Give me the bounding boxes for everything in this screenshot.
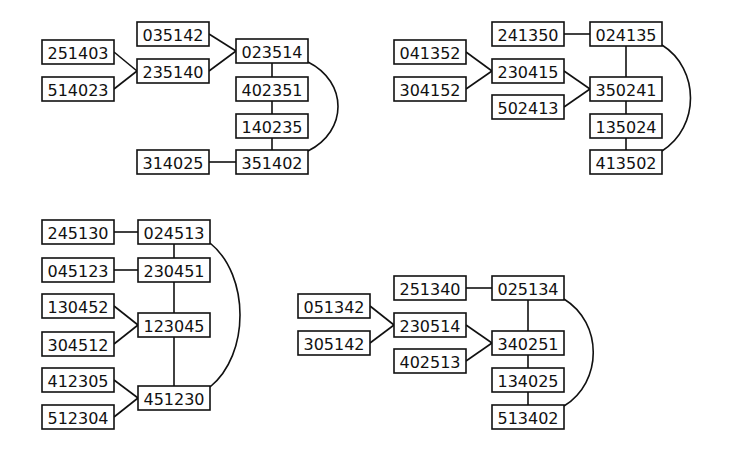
- node-label: 413502: [595, 154, 656, 173]
- node-351402: 351402: [236, 150, 308, 174]
- node-025134: 025134: [492, 276, 564, 300]
- node-label: 045123: [47, 262, 108, 281]
- arc-edge: [662, 45, 691, 151]
- node-130452: 130452: [42, 294, 114, 318]
- node-340251: 340251: [492, 331, 564, 355]
- node-label: 305142: [303, 335, 364, 354]
- edge: [466, 52, 492, 71]
- node-label: 024135: [595, 26, 656, 45]
- node-230451: 230451: [138, 258, 210, 282]
- node-230415: 230415: [492, 59, 564, 83]
- node-041352: 041352: [394, 40, 466, 64]
- edge: [114, 325, 138, 344]
- edge: [209, 34, 236, 51]
- nodes-layer: 0351420235142514032351405140234023511402…: [42, 22, 662, 429]
- edge: [466, 71, 492, 89]
- node-label: 051342: [303, 298, 364, 317]
- node-label: 512304: [47, 409, 108, 428]
- edge: [114, 398, 138, 417]
- node-label: 041352: [399, 44, 460, 63]
- node-024513: 024513: [138, 220, 210, 244]
- node-513402: 513402: [492, 405, 564, 429]
- node-label: 340251: [497, 335, 558, 354]
- edge: [209, 51, 236, 71]
- node-label: 134025: [497, 372, 558, 391]
- edge: [564, 71, 590, 89]
- node-512304: 512304: [42, 405, 114, 429]
- node-label: 235140: [142, 63, 203, 82]
- node-502413: 502413: [492, 95, 564, 119]
- node-label: 230415: [497, 63, 558, 82]
- node-label: 314025: [142, 154, 203, 173]
- node-451230: 451230: [138, 386, 210, 410]
- edge: [564, 89, 590, 107]
- graph-diagram: 0351420235142514032351405140234023511402…: [0, 0, 735, 455]
- node-305142: 305142: [298, 331, 370, 355]
- edge: [114, 380, 138, 398]
- graph-g3-nodes: 2451300245130451232304511304521230453045…: [42, 220, 210, 429]
- node-label: 023514: [241, 43, 302, 62]
- node-label: 035142: [142, 26, 203, 45]
- node-label: 024513: [143, 224, 204, 243]
- node-402513: 402513: [394, 349, 466, 373]
- node-label: 135024: [595, 118, 656, 137]
- node-251340: 251340: [394, 276, 466, 300]
- node-413502: 413502: [590, 150, 662, 174]
- arc-edge: [210, 243, 240, 387]
- node-label: 514023: [47, 81, 108, 100]
- node-label: 502413: [497, 99, 558, 118]
- node-label: 245130: [47, 224, 108, 243]
- node-035142: 035142: [137, 22, 209, 46]
- node-label: 251403: [47, 44, 108, 63]
- node-label: 251340: [399, 280, 460, 299]
- node-235140: 235140: [137, 59, 209, 83]
- graph-g4-nodes: 2513400251340513422305143051423402514025…: [298, 276, 564, 429]
- node-label: 230514: [399, 317, 460, 336]
- node-023514: 023514: [236, 39, 308, 63]
- node-label: 140235: [241, 118, 302, 137]
- node-label: 304512: [47, 336, 108, 355]
- node-241350: 241350: [492, 22, 564, 46]
- node-412305: 412305: [42, 368, 114, 392]
- node-245130: 245130: [42, 220, 114, 244]
- node-label: 351402: [241, 154, 302, 173]
- node-051342: 051342: [298, 294, 370, 318]
- edge: [114, 52, 137, 71]
- node-045123: 045123: [42, 258, 114, 282]
- node-350241: 350241: [590, 77, 662, 101]
- node-134025: 134025: [492, 368, 564, 392]
- node-label: 402351: [241, 81, 302, 100]
- node-402351: 402351: [236, 77, 308, 101]
- node-label: 241350: [497, 26, 558, 45]
- edge: [114, 306, 138, 325]
- node-140235: 140235: [236, 114, 308, 138]
- edge: [370, 325, 394, 343]
- node-024135: 024135: [590, 22, 662, 46]
- graph-g2-nodes: 2413500241350413522304153041523502415024…: [394, 22, 662, 174]
- node-230514: 230514: [394, 313, 466, 337]
- node-123045: 123045: [138, 313, 210, 337]
- node-135024: 135024: [590, 114, 662, 138]
- node-label: 402513: [399, 353, 460, 372]
- edge: [466, 325, 492, 343]
- node-label: 350241: [595, 81, 656, 100]
- edge: [114, 71, 137, 89]
- node-304512: 304512: [42, 332, 114, 356]
- node-label: 130452: [47, 298, 108, 317]
- graph-g1-nodes: 0351420235142514032351405140234023511402…: [42, 22, 308, 174]
- node-label: 230451: [143, 262, 204, 281]
- node-514023: 514023: [42, 77, 114, 101]
- node-251403: 251403: [42, 40, 114, 64]
- edge: [466, 343, 492, 361]
- node-label: 123045: [143, 317, 204, 336]
- node-label: 412305: [47, 372, 108, 391]
- arc-edge: [308, 62, 338, 151]
- node-label: 451230: [143, 390, 204, 409]
- node-314025: 314025: [137, 150, 209, 174]
- arc-edge: [564, 299, 593, 406]
- node-label: 304152: [399, 81, 460, 100]
- node-label: 025134: [497, 280, 558, 299]
- node-304152: 304152: [394, 77, 466, 101]
- edge: [370, 306, 394, 325]
- node-label: 513402: [497, 409, 558, 428]
